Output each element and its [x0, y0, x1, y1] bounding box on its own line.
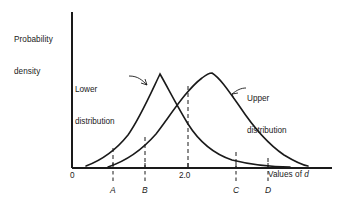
tick-label-center: 2.0: [179, 171, 190, 180]
annotation-upper-line-2: distribution: [247, 126, 287, 137]
leader-path-upper: [232, 88, 246, 94]
y-axis-title-line-2: density: [14, 67, 53, 78]
marker-label-b: B: [142, 185, 148, 195]
annotation-upper-line-1: Upper: [247, 94, 287, 105]
annotation-lower-line-2: distribution: [75, 117, 115, 128]
y-axis-title: Probability density: [14, 14, 53, 98]
marker-label-a: A: [110, 185, 116, 195]
x-axis-title-symbol: d: [304, 170, 309, 179]
probability-density-figure: Probability density Values of d Lower di…: [0, 0, 344, 203]
annotation-upper-distribution: Upper distribution: [247, 73, 287, 157]
y-axis-title-line-1: Probability: [14, 35, 53, 46]
annotation-lower-line-1: Lower: [75, 85, 115, 96]
tick-label-origin: 0: [70, 171, 75, 180]
dashed-droplines-lower: [113, 171, 268, 184]
axis-tick-marks: [113, 163, 268, 168]
leader-line-lower: [129, 76, 147, 85]
marker-label-c: C: [233, 185, 239, 195]
x-axis-title-prefix: Values of: [268, 170, 304, 179]
annotation-lower-distribution: Lower distribution: [75, 64, 115, 148]
marker-label-d: D: [265, 185, 271, 195]
x-axis-title: Values of d: [268, 170, 309, 181]
